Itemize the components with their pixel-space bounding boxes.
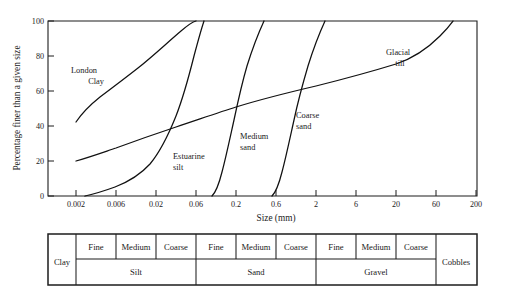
y-tick-label-60: 60: [36, 87, 44, 96]
y-tick-label-40: 40: [36, 122, 44, 131]
x-tick-label-7: 6: [354, 200, 358, 209]
label-coarse-sand-line1: Coarse: [296, 111, 320, 120]
x-tick-label-2: 0.02: [149, 200, 163, 209]
y-axis-title: Percentage finer than a given size: [12, 45, 22, 170]
table-cell-silt: Silt: [130, 267, 143, 277]
y-tick-label-20: 20: [36, 157, 44, 166]
x-tick-label-0: 0.002: [67, 200, 85, 209]
x-tick-label-10: 200: [470, 200, 482, 209]
table-cell-cobbles: Cobbles: [442, 257, 471, 267]
x-tick-label-4: 0.2: [231, 200, 241, 209]
y-tick-label-0: 0: [40, 192, 44, 201]
y-axis-ticks: [48, 21, 54, 196]
y-tick-label-80: 80: [36, 52, 44, 61]
x-axis-title: Size (mm): [257, 213, 296, 224]
table-cell-silt-medium: Medium: [121, 242, 150, 252]
label-medium-sand-line1: Medium: [240, 132, 269, 141]
plot-frame: [48, 21, 477, 196]
table-cell-gravel-fine: Fine: [328, 242, 343, 252]
table-cell-sand-medium: Medium: [241, 242, 270, 252]
x-axis-tick-labels: 0.002 0.006 0.02 0.06 0.2 0.6 2 6 20 60 …: [67, 200, 482, 209]
particle-size-distribution-figure: 0 20 40 60 80 100 Percentage finer than …: [0, 0, 505, 296]
label-coarse-sand-line2: sand: [296, 122, 312, 131]
table-cell-sand: Sand: [247, 267, 265, 277]
curve-medium-sand: [212, 21, 264, 196]
soil-classification-table: Fine Medium Coarse Fine Medium Coarse Fi…: [48, 234, 477, 285]
curve-coarse-sand: [272, 21, 325, 196]
label-glacial-till-line2: till: [395, 59, 405, 68]
curve-estuarine-silt: [85, 21, 204, 196]
label-estuarine-silt-line1: Estuarine: [173, 152, 205, 161]
table-cell-clay: Clay: [54, 257, 71, 267]
chart-svg: 0 20 40 60 80 100 Percentage finer than …: [0, 0, 505, 296]
y-tick-label-100: 100: [32, 17, 44, 26]
x-tick-label-3: 0.06: [189, 200, 203, 209]
x-tick-label-5: 0.6: [271, 200, 281, 209]
table-cell-gravel-medium: Medium: [361, 242, 390, 252]
curve-labels-group: London Clay Estuarine silt Medium sand C…: [71, 48, 411, 172]
table-cell-gravel-coarse: Coarse: [404, 242, 428, 252]
x-tick-label-6: 2: [314, 200, 318, 209]
x-tick-label-8: 20: [392, 200, 400, 209]
x-tick-label-1: 0.006: [107, 200, 125, 209]
table-cell-sand-coarse: Coarse: [284, 242, 308, 252]
y-axis-tick-labels: 0 20 40 60 80 100: [32, 17, 44, 201]
label-estuarine-silt-line2: silt: [173, 163, 184, 172]
x-tick-label-9: 60: [432, 200, 440, 209]
table-cell-sand-fine: Fine: [208, 242, 223, 252]
label-london-clay-line2: Clay: [88, 77, 105, 86]
table-cell-silt-coarse: Coarse: [164, 242, 188, 252]
label-glacial-till-line1: Glacial: [386, 48, 411, 57]
table-cell-silt-fine: Fine: [88, 242, 103, 252]
label-london-clay-line1: London: [71, 66, 98, 75]
table-cell-gravel: Gravel: [364, 267, 388, 277]
label-medium-sand-line2: sand: [240, 143, 256, 152]
